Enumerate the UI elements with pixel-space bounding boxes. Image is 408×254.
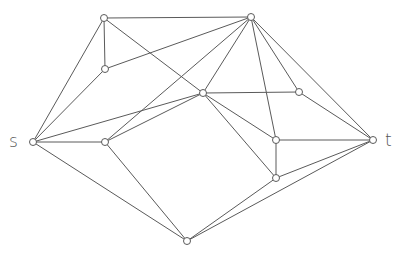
node-i: [184, 238, 191, 245]
node-h: [273, 175, 280, 182]
edge-b-d: [105, 17, 251, 69]
edges-layer: [33, 17, 373, 241]
node-f: [296, 89, 303, 96]
graph-diagram: s t: [0, 0, 408, 254]
node-a: [101, 15, 108, 22]
edge-e-f: [203, 92, 299, 93]
edge-s-e: [33, 93, 203, 142]
sink-label-t: t: [385, 130, 392, 150]
edge-a-e: [104, 18, 203, 93]
edge-f-t: [299, 92, 373, 140]
node-t: [370, 137, 377, 144]
edge-i-t: [187, 140, 373, 241]
node-b: [102, 66, 109, 73]
node-s: [30, 139, 37, 146]
nodes-layer: [30, 14, 377, 245]
edge-s-i: [33, 142, 187, 241]
edge-d-g: [251, 17, 276, 140]
edge-e-h: [203, 93, 276, 178]
source-label-s: s: [9, 131, 18, 151]
edge-d-t: [251, 17, 373, 140]
edge-c-i: [105, 142, 187, 241]
edge-e-g: [203, 93, 276, 140]
edge-h-i: [187, 178, 276, 241]
edge-a-d: [104, 17, 251, 18]
edge-s-a: [33, 18, 104, 142]
edge-d-e: [203, 17, 251, 93]
edge-a-b: [104, 18, 105, 69]
node-e: [200, 90, 207, 97]
edge-h-t: [276, 140, 373, 178]
node-g: [273, 137, 280, 144]
node-d: [248, 14, 255, 21]
node-c: [102, 139, 109, 146]
